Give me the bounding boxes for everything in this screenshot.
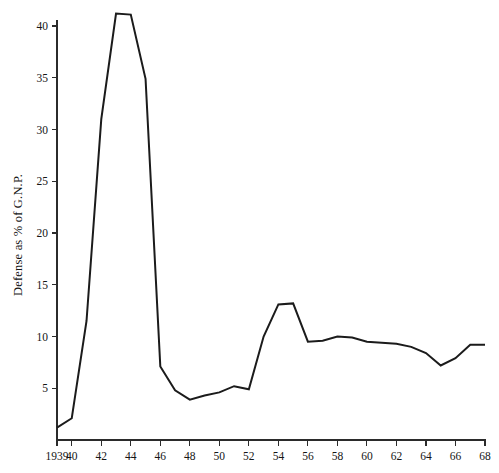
y-axis-ticks [52,26,57,388]
x-axis-ticks [57,440,485,446]
y-tick-label: 25 [37,175,49,187]
x-tick-label: 64 [420,450,432,462]
defense-percent-series [57,14,485,428]
x-tick-label: 40 [66,450,78,462]
x-tick-label: 62 [391,450,403,462]
x-tick-label: 54 [273,450,285,462]
x-tick-label: 56 [302,450,314,462]
y-tick-label: 30 [37,124,49,136]
chart-container: 510152025303540 193940424446485052545658… [0,0,499,473]
x-tick-label: 66 [450,450,462,462]
x-axis-tick-labels: 1939404244464850525456586062646668 [46,450,492,462]
x-tick-label: 58 [332,450,344,462]
y-tick-label: 35 [37,72,49,84]
x-tick-label: 48 [184,450,196,462]
x-tick-label: 50 [214,450,226,462]
x-tick-label: 44 [125,450,137,462]
x-tick-label: 68 [479,450,491,462]
defense-gnp-line-chart: 510152025303540 193940424446485052545658… [0,0,499,473]
y-tick-label: 20 [37,227,49,239]
y-axis-tick-labels: 510152025303540 [37,20,49,394]
y-axis-title: Defense as % of G.N.P. [11,174,25,296]
y-tick-label: 15 [37,279,49,291]
y-tick-label: 5 [42,382,48,394]
x-tick-label: 46 [155,450,167,462]
x-tick-label: 42 [96,450,108,462]
y-tick-label: 10 [37,331,49,343]
x-tick-label: 60 [361,450,373,462]
x-tick-label: 52 [243,450,255,462]
y-tick-label: 40 [37,20,49,32]
